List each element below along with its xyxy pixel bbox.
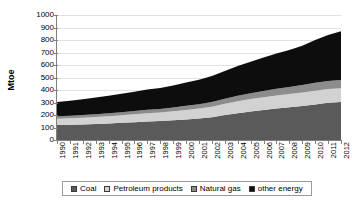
x-axis-tick-label: 2011 bbox=[330, 142, 338, 172]
y-axis-tick-label: 1000 bbox=[20, 11, 54, 19]
x-axis-tick-label: 2000 bbox=[188, 142, 196, 172]
y-axis-tick-mark bbox=[54, 15, 58, 16]
x-axis-tick-label: 2003 bbox=[227, 142, 235, 172]
x-axis-tick-label: 1993 bbox=[98, 142, 106, 172]
y-axis-tick-mark bbox=[54, 90, 58, 91]
square-swatch-icon bbox=[191, 186, 197, 192]
area-series-group bbox=[57, 15, 341, 140]
legend-item[interactable]: other energy bbox=[249, 184, 303, 193]
x-axis-tick-label: 2012 bbox=[343, 142, 351, 172]
y-axis-tick-mark bbox=[54, 103, 58, 104]
square-swatch-icon bbox=[71, 186, 77, 192]
x-axis-tick-label: 1998 bbox=[162, 142, 170, 172]
legend-item[interactable]: Natural gas bbox=[191, 184, 241, 193]
x-axis-tick-label: 2005 bbox=[253, 142, 261, 172]
x-axis-tick-label: 1991 bbox=[72, 142, 80, 172]
plot-area bbox=[56, 15, 341, 141]
y-axis-tick-label: 900 bbox=[20, 24, 54, 32]
legend-item[interactable]: Petroleum products bbox=[104, 184, 182, 193]
square-swatch-icon bbox=[104, 186, 110, 192]
x-axis-tick-label: 1990 bbox=[59, 142, 67, 172]
x-axis-tick-label: 1996 bbox=[136, 142, 144, 172]
legend-item-label: Coal bbox=[80, 184, 96, 193]
y-axis-tick-label: 100 bbox=[20, 124, 54, 132]
y-axis-title-label: Mtoe bbox=[5, 70, 15, 91]
stacked-area-chart: Mtoe 10009008007006005004003002001000 19… bbox=[0, 0, 362, 202]
x-axis-tick-labels: 1990199119921993199419951996199719981999… bbox=[56, 142, 340, 174]
y-axis-tick-label: 300 bbox=[20, 99, 54, 107]
y-axis-tick-label: 0 bbox=[20, 136, 54, 144]
x-axis-tick-label: 2010 bbox=[317, 142, 325, 172]
y-axis-tick-mark bbox=[54, 115, 58, 116]
y-axis-tick-mark bbox=[54, 128, 58, 129]
y-axis-tick-label: 800 bbox=[20, 36, 54, 44]
y-axis-tick-label: 400 bbox=[20, 86, 54, 94]
y-axis-tick-mark bbox=[54, 28, 58, 29]
y-axis-tick-mark bbox=[54, 65, 58, 66]
square-swatch-icon bbox=[249, 186, 255, 192]
y-axis-tick-label: 700 bbox=[20, 49, 54, 57]
y-axis-tick-label: 200 bbox=[20, 111, 54, 119]
x-axis-tick-label: 1995 bbox=[124, 142, 132, 172]
chart-legend: CoalPetroleum productsNatural gasother e… bbox=[62, 181, 312, 196]
legend-item-label: Natural gas bbox=[200, 184, 241, 193]
x-axis-tick-label: 2001 bbox=[201, 142, 209, 172]
x-axis-tick-label: 2002 bbox=[214, 142, 222, 172]
x-axis-tick-label: 1992 bbox=[85, 142, 93, 172]
y-axis-tick-label: 500 bbox=[20, 74, 54, 82]
y-axis-tick-mark bbox=[54, 53, 58, 54]
y-axis-tick-mark bbox=[54, 40, 58, 41]
y-axis-tick-mark bbox=[54, 78, 58, 79]
y-axis-tick-labels: 10009008007006005004003002001000 bbox=[16, 0, 54, 160]
legend-item[interactable]: Coal bbox=[71, 184, 96, 193]
x-axis-tick-label: 2004 bbox=[240, 142, 248, 172]
x-axis-tick-label: 1997 bbox=[149, 142, 157, 172]
y-axis-tick-label: 600 bbox=[20, 61, 54, 69]
legend-item-label: other energy bbox=[258, 184, 303, 193]
x-axis-tick-label: 1999 bbox=[175, 142, 183, 172]
x-axis-tick-label: 2007 bbox=[278, 142, 286, 172]
x-axis-tick-label: 2009 bbox=[304, 142, 312, 172]
x-axis-tick-label: 2008 bbox=[291, 142, 299, 172]
x-axis-tick-label: 1994 bbox=[111, 142, 119, 172]
legend-item-label: Petroleum products bbox=[113, 184, 182, 193]
x-axis-tick-label: 2006 bbox=[266, 142, 274, 172]
